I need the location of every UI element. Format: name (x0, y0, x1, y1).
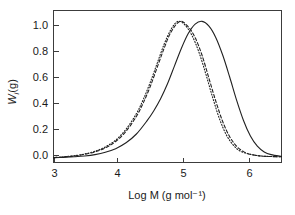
x-tick-label-3: 3 (51, 167, 57, 179)
y-tick-label-0.0: 0.0 (33, 149, 48, 161)
series-solid-curve (54, 21, 282, 157)
y-tick-label-1.0: 1.0 (33, 19, 48, 31)
y-axis-title: Wi(g) (6, 79, 21, 105)
y-tick-label-0.6: 0.6 (33, 71, 48, 83)
y-tick-label-0.4: 0.4 (33, 97, 48, 109)
chart-series-group (54, 21, 282, 158)
x-tick-label-6: 6 (246, 167, 252, 179)
y-tick-label-0.2: 0.2 (33, 123, 48, 135)
y-axis-tick-labels: 0.0 0.2 0.4 0.6 0.8 1.0 (33, 19, 48, 161)
series-dotted-curve (54, 21, 282, 157)
plot-frame (54, 11, 282, 163)
chart-figure: 3 4 5 6 0.0 0.2 0.4 0.6 0.8 1.0 Wi(g) (0, 0, 295, 215)
x-axis-ticks (55, 158, 250, 163)
x-tick-label-5: 5 (180, 167, 186, 179)
x-axis-title: Log M (g mol⁻¹) (128, 189, 206, 201)
y-tick-label-0.8: 0.8 (33, 45, 48, 57)
chart-plot-area: 3 4 5 6 0.0 0.2 0.4 0.6 0.8 1.0 Wi(g) (0, 0, 295, 215)
svg-text:Wi(g): Wi(g) (6, 79, 21, 105)
y-axis-ticks (54, 26, 59, 156)
y-axis-title-suffix: (g) (6, 79, 18, 92)
x-axis-tick-labels: 3 4 5 6 (51, 167, 252, 179)
series-dashed-curve (54, 21, 282, 157)
x-tick-label-4: 4 (114, 167, 120, 179)
